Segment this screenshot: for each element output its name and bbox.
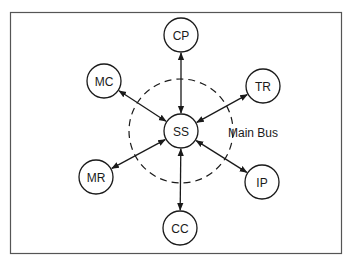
node-label: MR [87,171,106,185]
node-label: CC [171,222,189,236]
node-cc: CC [163,211,197,245]
main-bus-label: Main Bus [228,126,278,140]
node-label: TR [255,80,271,94]
node-label: IP [256,176,267,190]
node-cp: CP [164,18,198,52]
edge-ss-ip [196,141,247,173]
node-mc: MC [87,64,121,98]
node-tr: TR [246,69,280,103]
node-mr: MR [79,160,113,194]
node-ip: IP [245,165,279,199]
edge-ss-mr [112,140,165,169]
edge-ss-cc [180,149,181,210]
edge-ss-mc [119,91,166,121]
node-ss: SS [164,114,198,148]
node-label: MC [95,75,114,89]
bus-diagram: SSCPMCTRMRIPCC Main Bus [0,0,351,262]
node-label: SS [173,125,189,139]
node-label: CP [173,29,190,43]
